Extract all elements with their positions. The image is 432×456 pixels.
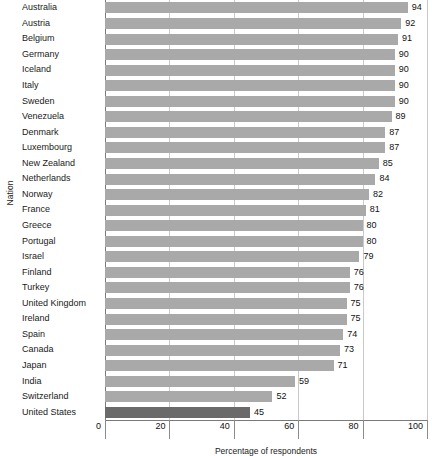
bar-value-label: 80 <box>367 235 377 247</box>
bar <box>105 407 250 418</box>
bar <box>105 65 395 76</box>
bar <box>105 127 385 138</box>
bar <box>105 314 347 325</box>
bar-row: 92 <box>105 16 432 32</box>
category-label: Canada <box>22 343 102 355</box>
bar-value-label: 90 <box>399 48 409 60</box>
bar <box>105 34 398 45</box>
bar-row: 81 <box>105 202 432 218</box>
x-tick-label: 40 <box>192 420 230 432</box>
category-label: Ireland <box>22 312 102 324</box>
bar-value-label: 84 <box>379 172 389 184</box>
bar-value-label: 79 <box>363 250 373 262</box>
category-label: Spain <box>22 328 102 340</box>
bar-value-label: 87 <box>389 126 399 138</box>
category-label: Iceland <box>22 63 102 75</box>
bar-row: 87 <box>105 140 432 156</box>
bar <box>105 2 408 13</box>
bar-value-label: 92 <box>405 17 415 29</box>
category-label: Portugal <box>22 235 102 247</box>
bar-row: 73 <box>105 342 432 358</box>
category-label: Finland <box>22 266 102 278</box>
category-label: Norway <box>22 188 102 200</box>
bar <box>105 189 369 200</box>
bar-row: 75 <box>105 311 432 327</box>
x-tick-label: 80 <box>321 420 359 432</box>
bar-value-label: 76 <box>354 281 364 293</box>
bar-value-label: 89 <box>396 110 406 122</box>
bar <box>105 96 395 107</box>
bar-value-label: 73 <box>344 343 354 355</box>
bar-value-label: 75 <box>351 297 361 309</box>
bar-row: 59 <box>105 373 432 389</box>
bar-value-label: 80 <box>367 219 377 231</box>
category-label: Netherlands <box>22 172 102 184</box>
x-tick-label: 100 <box>385 420 423 432</box>
bar <box>105 80 395 91</box>
bar <box>105 236 363 247</box>
bar-value-label: 82 <box>373 188 383 200</box>
category-label: Sweden <box>22 95 102 107</box>
bar <box>105 376 295 387</box>
x-tick-0 <box>105 420 106 439</box>
bar-row: 87 <box>105 124 432 140</box>
bar-value-label: 81 <box>370 203 380 215</box>
x-tick-20 <box>169 420 170 439</box>
bar-chart: Nation AustraliaAustriaBelgiumGermanyIce… <box>0 0 432 456</box>
bar <box>105 174 375 185</box>
category-label: Israel <box>22 250 102 262</box>
category-label: Belgium <box>22 32 102 44</box>
x-tick-label: 0 <box>63 420 101 432</box>
bar-value-label: 52 <box>276 390 286 402</box>
bar-row: 90 <box>105 62 432 78</box>
bar-value-label: 85 <box>383 157 393 169</box>
bar-value-label: 74 <box>347 328 357 340</box>
x-tick-100 <box>427 420 428 439</box>
bar-row: 79 <box>105 249 432 265</box>
bar-row: 85 <box>105 156 432 172</box>
bar <box>105 251 359 262</box>
x-axis-title: Percentage of respondents <box>105 446 427 456</box>
bar <box>105 49 395 60</box>
category-label: India <box>22 375 102 387</box>
bar-row: 90 <box>105 78 432 94</box>
category-label: Australia <box>22 1 102 13</box>
bar-row: 75 <box>105 296 432 312</box>
bar <box>105 282 350 293</box>
bar-row: 45 <box>105 404 432 420</box>
category-label: France <box>22 203 102 215</box>
bar <box>105 298 347 309</box>
bar-row: 76 <box>105 264 432 280</box>
bar-row: 89 <box>105 109 432 125</box>
bar <box>105 360 334 371</box>
bar-row: 71 <box>105 358 432 374</box>
bar-value-label: 94 <box>412 1 422 13</box>
bar-row: 90 <box>105 47 432 63</box>
category-label: Turkey <box>22 281 102 293</box>
category-label: Germany <box>22 48 102 60</box>
category-label: Greece <box>22 219 102 231</box>
bar <box>105 18 401 29</box>
bar <box>105 158 379 169</box>
category-label: Italy <box>22 79 102 91</box>
x-tick-label: 20 <box>127 420 165 432</box>
bar-value-label: 90 <box>399 63 409 75</box>
bar <box>105 267 350 278</box>
bar-value-label: 76 <box>354 266 364 278</box>
bar-row: 74 <box>105 327 432 343</box>
category-label: United Kingdom <box>22 297 102 309</box>
category-label: Austria <box>22 17 102 29</box>
bar-rows: 9492919090909089878785848281808079767675… <box>105 0 427 420</box>
bar-row: 84 <box>105 171 432 187</box>
x-tick-40 <box>234 420 235 439</box>
bar <box>105 111 392 122</box>
bar <box>105 142 385 153</box>
x-tick-label: 60 <box>256 420 294 432</box>
category-label: Switzerland <box>22 390 102 402</box>
bar-value-label: 90 <box>399 95 409 107</box>
bar-value-label: 59 <box>299 375 309 387</box>
bar-row: 80 <box>105 233 432 249</box>
x-tick-80 <box>363 420 364 439</box>
bar-value-label: 90 <box>399 79 409 91</box>
bar-row: 82 <box>105 187 432 203</box>
